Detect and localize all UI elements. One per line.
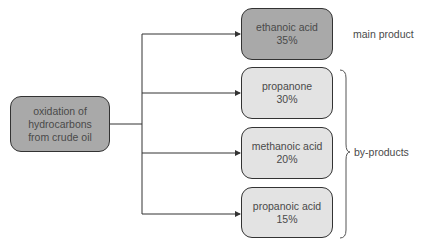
source-line-3: from crude oil (28, 131, 92, 144)
product-box-ethanoic-acid: ethanoic acid 35% (241, 8, 333, 60)
product-box-methanoic-acid: methanoic acid 20% (241, 127, 333, 179)
product-name: methanoic acid (252, 140, 323, 153)
product-percent: 30% (276, 93, 297, 106)
main-product-label: main product (353, 28, 414, 40)
brace-icon (340, 70, 350, 238)
source-line-2: hydrocarbons (28, 118, 92, 131)
product-percent: 35% (276, 34, 297, 47)
product-name: ethanoic acid (256, 21, 318, 34)
product-percent: 15% (276, 213, 297, 226)
by-products-label: by-products (354, 146, 409, 158)
product-name: propanoic acid (253, 200, 321, 213)
source-box: oxidation of hydrocarbons from crude oil (10, 96, 110, 152)
product-box-propanone: propanone 30% (241, 67, 333, 119)
product-name: propanone (262, 80, 312, 93)
source-line-1: oxidation of (33, 105, 87, 118)
product-box-propanoic-acid: propanoic acid 15% (241, 187, 333, 238)
product-percent: 20% (276, 153, 297, 166)
